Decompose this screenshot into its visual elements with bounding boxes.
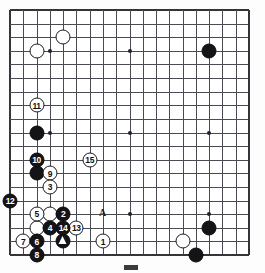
stone-move-number: 9 (48, 169, 52, 178)
stone-move-number: 11 (32, 101, 40, 110)
stone-white-13[interactable]: 13 (69, 220, 84, 235)
grid-line-vertical (143, 10, 144, 255)
stone-move-number: 4 (48, 224, 52, 233)
stone-move-number: 2 (61, 210, 65, 219)
star-point (48, 49, 52, 53)
stone-move-number: 8 (34, 251, 38, 260)
grid-line-vertical (196, 10, 197, 255)
stone-black[interactable] (188, 248, 203, 263)
stone-black-8[interactable]: 8 (29, 248, 44, 263)
star-point (48, 131, 52, 135)
triangle-marker-icon (59, 236, 67, 244)
stone-move-number: 10 (32, 155, 41, 164)
stone-move-number: 13 (72, 224, 81, 233)
grid-line-vertical (156, 10, 157, 255)
stone-white-5[interactable]: 5 (29, 207, 44, 222)
stone-white-1[interactable]: 1 (95, 234, 110, 249)
stone-white[interactable] (56, 30, 71, 45)
stone-black-14[interactable]: 14 (56, 220, 71, 235)
stone-white[interactable] (175, 234, 190, 249)
star-point (128, 131, 132, 135)
grid-line-horizontal (10, 146, 249, 147)
stone-black-12[interactable]: 12 (3, 193, 18, 208)
stone-white-15[interactable]: 15 (82, 152, 97, 167)
stone-move-number: 12 (6, 196, 15, 205)
letter-marker-a: A (99, 207, 106, 218)
grid-line-horizontal (10, 160, 249, 161)
star-point (128, 49, 132, 53)
stone-white-11[interactable]: 11 (29, 98, 44, 113)
stone-move-number: 1 (101, 237, 105, 246)
stone-move-number: 5 (34, 210, 38, 219)
star-point (207, 131, 211, 135)
grid-line-vertical (183, 10, 184, 255)
stone-black[interactable] (202, 43, 217, 58)
go-diagram-root: 111093151252414137681 A (0, 0, 265, 273)
go-board[interactable]: 111093151252414137681 A (10, 10, 249, 255)
stone-black[interactable] (202, 220, 217, 235)
star-point (128, 212, 132, 216)
grid-line-vertical (222, 10, 223, 255)
stone-move-number: 14 (59, 224, 68, 233)
grid-line-vertical (236, 10, 237, 255)
grid-line-vertical (169, 10, 170, 255)
grid-line-horizontal (10, 201, 249, 202)
stone-black-10[interactable]: 10 (29, 152, 44, 167)
stone-move-number: 3 (48, 183, 52, 192)
stone-move-number: 7 (21, 237, 25, 246)
stone-black[interactable] (29, 125, 44, 140)
stone-move-number: 6 (34, 237, 38, 246)
grid-line-vertical (248, 10, 250, 255)
stone-white-3[interactable]: 3 (42, 179, 57, 194)
stone-move-number: 15 (85, 155, 94, 164)
star-point (207, 212, 211, 216)
caption-swatch (124, 265, 138, 270)
grid-line-horizontal (10, 241, 249, 242)
caption-strip (0, 262, 265, 273)
grid-line-horizontal (10, 254, 249, 256)
stone-white[interactable] (29, 43, 44, 58)
